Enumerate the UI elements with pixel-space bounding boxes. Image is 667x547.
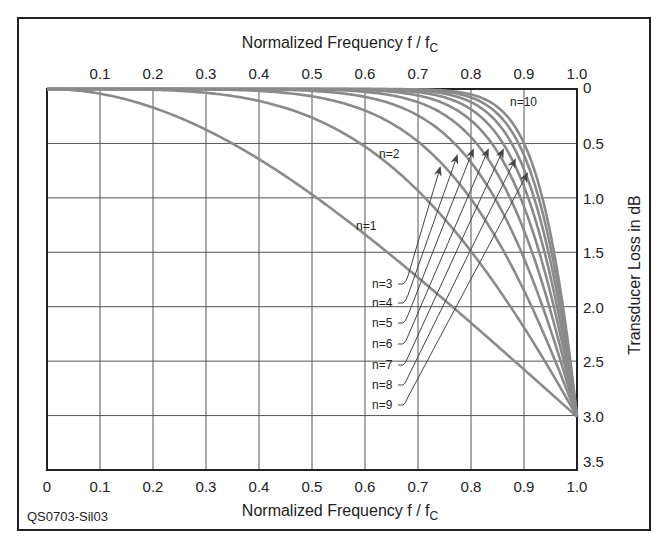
x-tick-bottom: 0.1: [90, 478, 111, 495]
curve-label-n2: n=2: [379, 147, 400, 161]
x-tick-bottom: 0.8: [461, 478, 482, 495]
curve-label-n5: n=5: [372, 316, 393, 330]
x-tick-bottom: 0.3: [196, 478, 217, 495]
x-tick-top: 0.2: [143, 65, 164, 82]
x-tick-bottom: 0: [43, 478, 51, 495]
x-tick-top: 0.9: [514, 65, 535, 82]
x-tick-bottom: 1.0: [567, 478, 588, 495]
x-tick-bottom: 0.2: [143, 478, 164, 495]
y-tick: 1.5: [583, 244, 604, 261]
x-tick-bottom: 0.5: [302, 478, 323, 495]
curve-label-n1: n=1: [356, 219, 377, 233]
curve-label-n3: n=3: [372, 277, 393, 291]
curve-label-n8: n=8: [372, 378, 393, 392]
y-tick: 3.0: [583, 408, 604, 425]
y-tick: 2.5: [583, 353, 604, 370]
leader-line-n4: [398, 156, 457, 303]
y-tick: 1.0: [583, 190, 604, 207]
x-tick-top: 0.1: [90, 65, 111, 82]
y-tick: 0.5: [583, 135, 604, 152]
curve-label-n6: n=6: [372, 337, 393, 351]
leader-line-n6: [398, 150, 488, 344]
curve-label-n9: n=9: [372, 398, 393, 412]
x-tick-top: 0.6: [355, 65, 376, 82]
loss-chart: n=3n=4n=5n=6n=7n=8n=9n=1n=2n=100.10.20.3…: [0, 0, 667, 547]
grid: [47, 89, 577, 470]
x-tick-top: 0.3: [196, 65, 217, 82]
y-tick: 0: [583, 79, 591, 96]
x-axis-title-top: Normalized Frequency f / fC: [242, 34, 439, 55]
x-tick-top: 0.5: [302, 65, 323, 82]
y-tick: 2.0: [583, 299, 604, 316]
y-axis-title: Transducer Loss in dB: [626, 195, 643, 354]
x-tick-bottom: 0.4: [249, 478, 270, 495]
x-tick-top: 0.7: [408, 65, 429, 82]
y-tick: 3.5: [583, 453, 604, 470]
x-tick-bottom: 0.6: [355, 478, 376, 495]
curve-label-n7: n=7: [372, 358, 393, 372]
x-axis-title-bottom: Normalized Frequency f / fC: [242, 502, 439, 523]
figure-id: QS0703-Sil03: [27, 509, 108, 524]
x-tick-bottom: 0.7: [408, 478, 429, 495]
x-tick-bottom: 0.9: [514, 478, 535, 495]
x-tick-top: 0.8: [461, 65, 482, 82]
curve-label-n10: n=10: [510, 95, 537, 109]
x-tick-top: 0.4: [249, 65, 270, 82]
curve-label-n4: n=4: [372, 296, 393, 310]
